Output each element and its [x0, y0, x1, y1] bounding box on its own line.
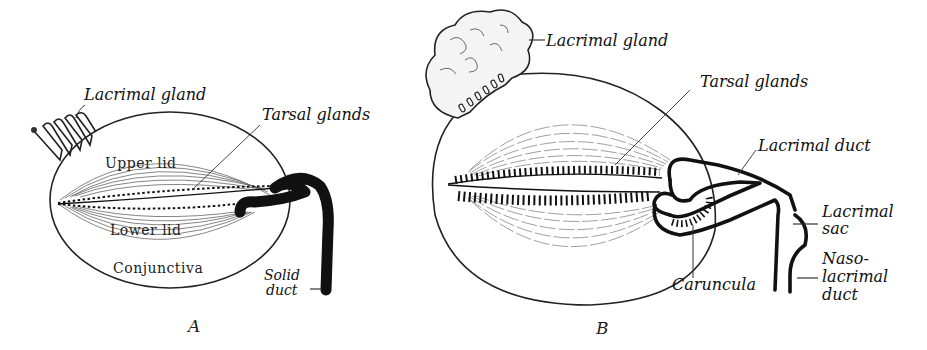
label-nasolacrimal-line2: lacrimal: [822, 268, 888, 285]
label-nasolacrimal-line3: duct: [822, 286, 858, 303]
label-conjunctiva: Conjunctiva: [113, 260, 203, 276]
label-lacrimal-gland-b: Lacrimal gland: [546, 32, 668, 49]
diagram-drawing: [0, 0, 927, 350]
label-tarsal-glands-b: Tarsal glands: [700, 73, 808, 90]
label-caruncula: Caruncula: [672, 276, 756, 293]
label-tarsal-glands-a: Tarsal glands: [262, 106, 370, 123]
label-upper-lid: Upper lid: [105, 155, 177, 171]
label-lacrimal-sac-line2: sac: [822, 220, 849, 237]
label-lacrimal-gland-a: Lacrimal gland: [84, 86, 206, 103]
caption-panel-a: A: [188, 316, 200, 336]
label-lacrimal-duct: Lacrimal duct: [758, 137, 871, 154]
label-lower-lid: Lower lid: [110, 222, 182, 238]
label-solid-duct-line1: Solid: [264, 268, 300, 283]
panel-b-drawing: [426, 10, 818, 305]
eye-outline-b: [433, 73, 716, 305]
leader-lacrimal-duct: [738, 150, 756, 175]
label-nasolacrimal-line1: Naso-: [822, 250, 869, 267]
lacrimal-gland-b: [426, 10, 533, 118]
label-solid-duct-line2: duct: [266, 283, 297, 298]
label-lacrimal-sac-line1: Lacrimal: [822, 203, 894, 220]
caption-panel-b: B: [596, 318, 609, 338]
